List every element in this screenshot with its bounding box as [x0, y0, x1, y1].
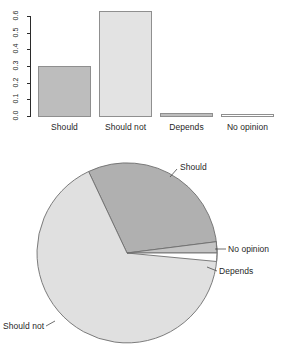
bar-should-not — [99, 11, 152, 117]
y-axis-tick-mark — [27, 66, 30, 67]
y-axis-tick-label: 0.2 — [12, 75, 19, 91]
bar-chart: 0.0 0.1 0.2 0.3 0.4 0.5 0.6 Should Shoul… — [0, 0, 281, 140]
bar-depends — [160, 113, 213, 117]
bar-should — [38, 66, 91, 117]
y-axis-tick-label: 0.5 — [12, 25, 19, 41]
survey-figure: 0.0 0.1 0.2 0.3 0.4 0.5 0.6 Should Shoul… — [0, 0, 281, 360]
bar-category-label-depends: Depends — [160, 122, 213, 132]
pie-label-should-not: Should not — [3, 321, 44, 331]
y-axis-tick-label: 0.3 — [12, 58, 19, 74]
y-axis-tick-mark — [27, 99, 30, 100]
y-axis-tick-mark — [27, 83, 30, 84]
pie-label-depends: Depends — [219, 266, 253, 276]
bar-category-label-should: Should — [38, 122, 91, 132]
bar-no-opinion — [221, 114, 274, 117]
y-axis-tick-mark — [27, 49, 30, 50]
y-axis-tick-mark — [27, 116, 30, 117]
y-axis-tick-label: 0.0 — [12, 108, 19, 124]
pie-chart: Should No opinion Depends Should not — [0, 145, 281, 360]
pie-label-no-opinion: No opinion — [228, 244, 269, 254]
y-axis-tick-mark — [27, 33, 30, 34]
y-axis-tick-label: 0.4 — [12, 41, 19, 57]
bar-category-label-no-opinion: No opinion — [218, 122, 277, 132]
y-axis-tick-label: 0.1 — [12, 91, 19, 107]
y-axis-tick-mark — [27, 16, 30, 17]
y-axis-line — [30, 16, 31, 117]
pie-leader-line-should-not — [46, 321, 55, 326]
y-axis-tick-label: 0.6 — [12, 8, 19, 24]
bar-category-label-should-not: Should not — [97, 122, 154, 132]
pie-label-should: Should — [180, 162, 207, 172]
